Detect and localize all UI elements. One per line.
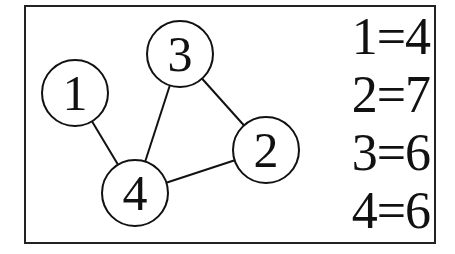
node-2: 2 [233,117,299,183]
legend-item: 1=4 [330,8,430,66]
legend-item: 4=6 [330,182,430,240]
node-label: 4 [123,165,148,221]
nodes: 1234 [42,21,299,226]
node-label: 1 [63,65,88,121]
legend-item: 3=6 [330,124,430,182]
node-label: 3 [168,26,193,82]
node-4: 4 [102,160,168,226]
legend: 1=4 2=7 3=6 4=6 [330,8,430,240]
legend-item: 2=7 [330,66,430,124]
node-label: 2 [254,122,279,178]
node-3: 3 [147,21,213,87]
node-1: 1 [42,60,108,126]
